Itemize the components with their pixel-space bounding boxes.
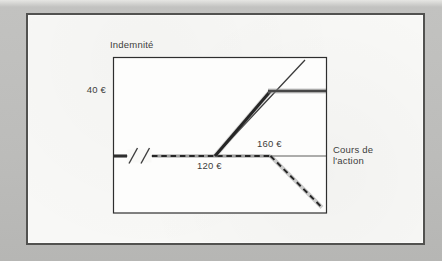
x-axis-label: Cours de l'action (333, 144, 373, 166)
scanned-figure-page: Indemnité 40 € 120 € 160 € Cours de l'ac… (0, 0, 442, 261)
payoff-chart (0, 0, 442, 261)
y-axis-label: Indemnité (110, 39, 154, 50)
x-tick-label-120: 120 € (197, 160, 222, 171)
x-tick-label-160: 160 € (257, 138, 282, 149)
plot-area (114, 58, 327, 214)
x-axis-label-line2: l'action (333, 155, 373, 166)
x-axis-label-line1: Cours de (333, 144, 373, 155)
y-tick-label-40: 40 € (78, 84, 106, 95)
